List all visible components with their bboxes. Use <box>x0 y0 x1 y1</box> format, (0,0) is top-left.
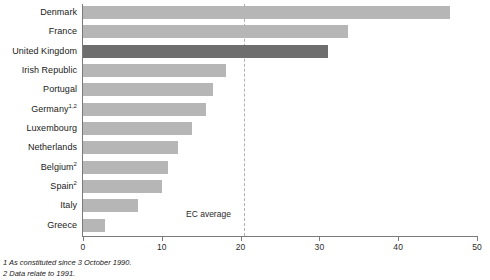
bar <box>83 122 192 135</box>
bar-row: United Kingdom <box>0 43 490 62</box>
x-tick-label-40: 40 <box>393 242 403 252</box>
bar-category-label: Germany1,2 <box>31 104 77 114</box>
bar <box>83 180 162 193</box>
bar <box>83 219 105 232</box>
bar-category-label: Irish Republic <box>22 65 77 75</box>
bar-row: Portugal <box>0 81 490 100</box>
bar-category-text: Irish Republic <box>22 65 77 75</box>
bar-category-text: Portugal <box>43 84 77 94</box>
bar <box>83 64 226 77</box>
bar-category-label: Greece <box>47 220 77 230</box>
x-tick-30 <box>319 237 320 241</box>
bar-category-text: Luxembourg <box>26 123 77 133</box>
bar-category-text: Denmark <box>40 7 77 17</box>
bar <box>83 103 206 116</box>
footnote-1: 1 As constituted since 3 October 1990. <box>3 258 303 269</box>
x-tick-label-10: 10 <box>157 242 167 252</box>
bar-category-label: Portugal <box>43 84 77 94</box>
bar-row: France <box>0 23 490 42</box>
x-axis-line <box>82 236 478 237</box>
bar-row: Denmark <box>0 4 490 23</box>
x-tick-label-30: 30 <box>315 242 325 252</box>
x-tick-50 <box>477 237 478 241</box>
bar <box>83 83 213 96</box>
bar <box>83 199 138 212</box>
bar-category-label: Luxembourg <box>26 123 77 133</box>
bar-row: Greece <box>0 217 490 236</box>
bar-category-label: Italy <box>60 200 77 210</box>
bar-category-text: Germany <box>31 104 68 114</box>
x-tick-10 <box>162 237 163 241</box>
bar-category-text: Spain <box>50 181 73 191</box>
bar <box>83 6 450 19</box>
bar-row: Luxembourg <box>0 120 490 139</box>
bar-category-text: France <box>49 26 77 36</box>
bar-category-text: Greece <box>47 220 77 230</box>
bar-row: Germany1,2 <box>0 101 490 120</box>
x-tick-label-20: 20 <box>236 242 246 252</box>
bar-category-text: United Kingdom <box>12 46 77 56</box>
bar <box>83 161 168 174</box>
footnote-2: 2 Data relate to 1991. <box>3 269 303 280</box>
bar <box>83 25 348 38</box>
x-tick-label-0: 0 <box>81 242 86 252</box>
bar-category-footnote-marker: 2 <box>74 180 77 186</box>
bar-category-footnote-marker: 1,2 <box>69 103 78 109</box>
bar-row: Belgium2 <box>0 159 490 178</box>
bar-category-label: France <box>49 26 77 36</box>
bar-row: Netherlands <box>0 139 490 158</box>
bar <box>83 45 328 58</box>
bar-category-footnote-marker: 2 <box>74 161 77 167</box>
bar-category-label: United Kingdom <box>12 46 77 56</box>
bar-category-label: Denmark <box>40 7 77 17</box>
bar-row: Italy <box>0 197 490 216</box>
bar-category-text: Italy <box>60 200 77 210</box>
x-tick-40 <box>398 237 399 241</box>
x-tick-label-50: 50 <box>472 242 482 252</box>
bar-category-text: Netherlands <box>28 142 77 152</box>
bar-row: Spain2 <box>0 178 490 197</box>
bar-category-label: Netherlands <box>28 142 77 152</box>
bar <box>83 141 178 154</box>
bar-category-label: Belgium2 <box>41 162 77 172</box>
bar-row: Irish Republic <box>0 62 490 81</box>
x-tick-0 <box>83 237 84 241</box>
bar-category-label: Spain2 <box>50 181 77 191</box>
bar-chart: 01020304050 EC average DenmarkFranceUnit… <box>0 0 490 280</box>
footnotes: 1 As constituted since 3 October 1990. 2… <box>3 258 303 279</box>
bar-category-text: Belgium <box>41 162 74 172</box>
x-tick-20 <box>241 237 242 241</box>
